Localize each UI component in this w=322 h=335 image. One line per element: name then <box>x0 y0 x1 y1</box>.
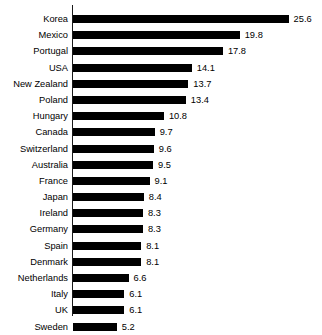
category-label: Hungary <box>33 110 68 122</box>
bar <box>73 47 223 55</box>
category-label: Switzerland <box>20 143 68 155</box>
bar <box>73 323 117 331</box>
bar-row: Poland13.4 <box>0 94 322 110</box>
value-label: 13.4 <box>191 94 209 106</box>
bar <box>73 64 192 72</box>
value-label: 8.3 <box>148 223 161 235</box>
category-label: Mexico <box>39 29 68 41</box>
bar <box>73 225 143 233</box>
bar <box>73 177 150 185</box>
bar-row: New Zealand13.7 <box>0 78 322 94</box>
value-label: 6.1 <box>129 288 142 300</box>
bar-row: Italy6.1 <box>0 288 322 304</box>
bar-row: Germany8.3 <box>0 223 322 239</box>
bar <box>73 80 188 88</box>
bar <box>73 274 129 282</box>
category-label: Portugal <box>33 45 68 57</box>
category-label: USA <box>49 62 68 74</box>
bar-row: Spain8.1 <box>0 240 322 256</box>
value-label: 10.8 <box>169 110 187 122</box>
category-label: Japan <box>43 191 68 203</box>
value-label: 25.6 <box>294 13 312 25</box>
bar-row: Australia9.5 <box>0 159 322 175</box>
bar <box>73 193 144 201</box>
value-label: 9.5 <box>158 159 171 171</box>
value-label: 9.1 <box>155 175 168 187</box>
value-label: 17.8 <box>228 45 246 57</box>
category-label: Australia <box>32 159 68 171</box>
bar <box>73 145 154 153</box>
category-label: UK <box>55 304 68 316</box>
bar <box>73 258 141 266</box>
category-label: Denmark <box>30 256 68 268</box>
bar-row: USA14.1 <box>0 62 322 78</box>
bar <box>73 161 153 169</box>
value-label: 8.3 <box>148 207 161 219</box>
bar-row: Korea25.6 <box>0 13 322 29</box>
bar-row: Sweden5.2 <box>0 321 322 335</box>
bar-row: Hungary10.8 <box>0 110 322 126</box>
category-label: Italy <box>51 288 68 300</box>
value-label: 8.4 <box>149 191 162 203</box>
value-label: 13.7 <box>193 78 211 90</box>
bar <box>73 96 186 104</box>
category-label: France <box>39 175 68 187</box>
value-label: 5.2 <box>122 321 135 333</box>
bar <box>73 128 155 136</box>
value-label: 6.1 <box>129 304 142 316</box>
bar <box>73 31 240 39</box>
bar-row: France9.1 <box>0 175 322 191</box>
bar <box>73 290 124 298</box>
value-label: 19.8 <box>245 29 263 41</box>
category-label: Netherlands <box>18 272 68 284</box>
bar-rows: Korea25.6Mexico19.8Portugal17.8USA14.1Ne… <box>0 13 322 335</box>
bar-row: UK6.1 <box>0 304 322 320</box>
bar <box>73 242 141 250</box>
category-label: Korea <box>43 13 68 25</box>
bar-row: Netherlands6.6 <box>0 272 322 288</box>
bar-row: Mexico19.8 <box>0 29 322 45</box>
category-label: Ireland <box>40 207 68 219</box>
bar-row: Canada9.7 <box>0 126 322 142</box>
bar-row: Denmark8.1 <box>0 256 322 272</box>
category-label: Spain <box>44 240 68 252</box>
bar-row: Switzerland9.6 <box>0 143 322 159</box>
category-label: Germany <box>30 223 68 235</box>
value-label: 8.1 <box>146 256 159 268</box>
category-label: New Zealand <box>13 78 68 90</box>
bar <box>73 112 164 120</box>
category-label: Canada <box>35 126 68 138</box>
bar <box>73 209 143 217</box>
category-label: Sweden <box>34 321 68 333</box>
value-label: 9.6 <box>159 143 172 155</box>
bar <box>73 306 124 314</box>
bar-row: Portugal17.8 <box>0 45 322 61</box>
bar-row: Japan8.4 <box>0 191 322 207</box>
bar-row: Ireland8.3 <box>0 207 322 223</box>
value-label: 9.7 <box>160 126 173 138</box>
value-label: 14.1 <box>197 62 215 74</box>
category-label: Poland <box>39 94 68 106</box>
value-label: 6.6 <box>134 272 147 284</box>
bar <box>73 15 289 23</box>
value-label: 8.1 <box>146 240 159 252</box>
